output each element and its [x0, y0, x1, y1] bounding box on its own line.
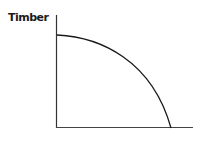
ppf-curve	[57, 35, 171, 128]
ppf-diagram	[0, 0, 203, 145]
